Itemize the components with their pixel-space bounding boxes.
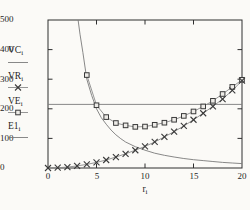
x-tick-label: 10 [135,171,155,182]
x-tick-label: 5 [87,171,107,182]
legend-x-marker-sample-vr [7,83,33,92]
x-axis-title: ri [135,184,155,196]
x-tick-label: 0 [38,171,58,182]
x-tick-label: 15 [184,171,204,182]
legend-label-e1: E1i [8,120,42,133]
legend-label-vr: VRi [8,70,42,83]
y-tick-label: 500 [0,14,14,25]
legend-line-sample-e1 [7,133,33,142]
y-tick-label: 0 [0,162,5,173]
legend-label-vc: VCi [8,44,42,57]
x-tick-label: 20 [232,171,250,182]
legend-line-sample-vc [7,58,33,67]
legend-label-ve: VEi [8,95,42,108]
legend-square-marker-sample-ve [7,108,33,117]
chart-figure: 500 400 300 200 100 0 0 5 10 15 20 ri VC… [0,0,250,210]
